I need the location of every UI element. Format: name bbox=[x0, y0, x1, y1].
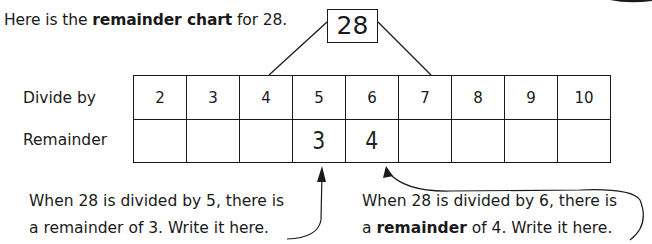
caption-text: a bbox=[362, 219, 376, 237]
divisor-cell: 7 bbox=[399, 76, 452, 120]
remainder-row: 3 4 bbox=[134, 120, 611, 163]
caption-line: When 28 is divided by 5, there is bbox=[29, 188, 284, 215]
intro-bold-term: remainder chart bbox=[92, 11, 232, 29]
remainder-cell-4[interactable] bbox=[240, 120, 293, 163]
remainder-cell-2[interactable] bbox=[134, 120, 187, 163]
divisor-cell: 2 bbox=[134, 76, 187, 120]
left-connector-line bbox=[269, 22, 327, 75]
intro-suffix: for 28. bbox=[232, 11, 287, 29]
divisor-cell: 4 bbox=[240, 76, 293, 120]
right-connector-line bbox=[378, 22, 431, 75]
intro-prefix: Here is the bbox=[4, 11, 92, 29]
remainder-cell-7[interactable] bbox=[399, 120, 452, 163]
remainder-chart-table: 2 3 4 5 6 7 8 9 10 3 4 bbox=[133, 75, 611, 163]
divisor-cell: 3 bbox=[187, 76, 240, 120]
arrow-head-five bbox=[317, 166, 326, 182]
caption-divide-by-six: When 28 is divided by 6, there is a rema… bbox=[362, 188, 617, 242]
divisor-row: 2 3 4 5 6 7 8 9 10 bbox=[134, 76, 611, 120]
caption-line: a remainder of 3. Write it here. bbox=[29, 215, 284, 242]
divisor-cell: 8 bbox=[452, 76, 505, 120]
remainder-value: 3 bbox=[313, 127, 326, 155]
arrow-to-five bbox=[287, 172, 322, 239]
divisor-cell: 5 bbox=[293, 76, 346, 120]
arrow-head-six bbox=[383, 166, 393, 178]
divisor-cell: 6 bbox=[346, 76, 399, 120]
caption-text: of 4. Write it here. bbox=[467, 219, 613, 237]
remainder-cell-3[interactable] bbox=[187, 120, 240, 163]
divisor-cell: 10 bbox=[558, 76, 611, 120]
remainder-cell-6[interactable]: 4 bbox=[346, 120, 399, 163]
remainder-cell-5[interactable]: 3 bbox=[293, 120, 346, 163]
remainder-cell-10[interactable] bbox=[558, 120, 611, 163]
intro-text: Here is the remainder chart for 28. bbox=[4, 11, 287, 29]
caption-bold-term: remainder bbox=[376, 219, 466, 237]
remainder-cell-8[interactable] bbox=[452, 120, 505, 163]
remainder-value: 4 bbox=[366, 127, 379, 155]
caption-line: When 28 is divided by 6, there is bbox=[362, 188, 617, 215]
remainder-cell-9[interactable] bbox=[505, 120, 558, 163]
caption-line: a remainder of 4. Write it here. bbox=[362, 215, 617, 242]
corner-decoration bbox=[610, 0, 652, 2]
caption-divide-by-five: When 28 is divided by 5, there is a rema… bbox=[29, 188, 284, 242]
row-label-remainder: Remainder bbox=[23, 131, 107, 149]
row-label-divide-by: Divide by bbox=[23, 89, 96, 107]
dividend-box: 28 bbox=[327, 9, 378, 43]
divisor-cell: 9 bbox=[505, 76, 558, 120]
